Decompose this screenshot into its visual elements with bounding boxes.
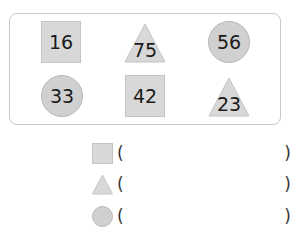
square-icon bbox=[92, 143, 113, 164]
shape-number: 23 bbox=[217, 93, 241, 115]
circle-shape: 56 bbox=[208, 21, 250, 63]
close-paren: ) bbox=[284, 206, 291, 226]
shape-number: 75 bbox=[133, 39, 157, 61]
close-paren: ) bbox=[284, 143, 291, 163]
square-shape: 42 bbox=[125, 75, 165, 117]
square-shape: 16 bbox=[41, 21, 81, 63]
shape-number: 16 bbox=[49, 31, 73, 53]
open-paren: ( bbox=[117, 206, 124, 226]
circle-icon bbox=[92, 206, 113, 227]
open-paren: ( bbox=[117, 143, 124, 163]
answer-blank-square[interactable] bbox=[124, 143, 285, 163]
triangle-shape: 23 bbox=[208, 77, 250, 117]
shape-number: 56 bbox=[217, 31, 241, 53]
triangle-icon bbox=[92, 174, 113, 195]
shape-number: 33 bbox=[50, 85, 74, 107]
triangle-shape: 75 bbox=[124, 23, 166, 63]
close-paren: ) bbox=[284, 174, 291, 194]
shape-number: 42 bbox=[133, 85, 157, 107]
open-paren: ( bbox=[117, 174, 124, 194]
answer-blank-triangle[interactable] bbox=[124, 174, 285, 194]
answer-blank-circle[interactable] bbox=[124, 206, 285, 226]
legend-row-triangle: ( ) bbox=[92, 173, 292, 195]
legend-row-square: ( ) bbox=[92, 142, 292, 164]
circle-shape: 33 bbox=[41, 75, 83, 117]
legend-row-circle: ( ) bbox=[92, 205, 292, 227]
shapes-panel: 16 75 56 33 42 23 bbox=[9, 13, 281, 125]
